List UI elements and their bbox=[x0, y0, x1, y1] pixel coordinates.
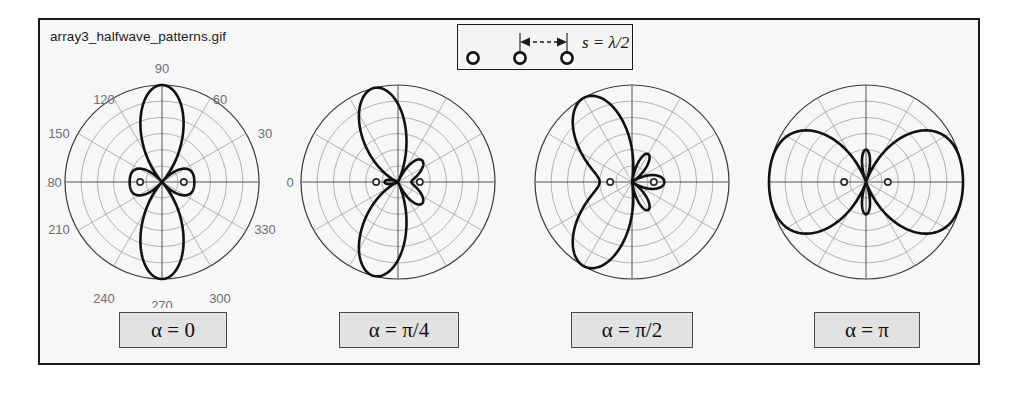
angle-tick-label-240: 240 bbox=[93, 291, 115, 306]
file-caption: array3_halfwave_patterns.gif bbox=[50, 29, 226, 44]
polar-plot-alpha-0: 901206015018021024027030033030 bbox=[46, 56, 278, 308]
antenna-element-marker-1-icon bbox=[137, 179, 143, 185]
angle-tick-label-150: 150 bbox=[48, 126, 70, 141]
angle-tick-label-90: 90 bbox=[155, 61, 169, 76]
polar-plot-alpha-pi-over-4: 0 bbox=[282, 56, 514, 308]
angle-tick-label-270: 270 bbox=[151, 298, 173, 308]
angle-tick-label-30: 30 bbox=[258, 126, 272, 141]
legend-arrowhead-left-icon bbox=[520, 38, 530, 47]
polar-chart-0: 901206015018021024027030033030 bbox=[46, 56, 278, 308]
antenna-element-marker-1-icon bbox=[373, 179, 379, 185]
figure-frame: array3_halfwave_patterns.gif s = λ/2 901… bbox=[38, 18, 980, 365]
antenna-element-marker-2-icon bbox=[181, 179, 187, 185]
caption-alpha-pi-over-2: α = π/2 bbox=[571, 312, 693, 348]
caption-row: α = 0 α = π/4 α = π/2 α = π bbox=[40, 312, 978, 354]
angle-tick-label-330: 330 bbox=[254, 222, 276, 237]
angle-tick-label-0: 0 bbox=[286, 175, 293, 190]
antenna-element-marker-1-icon bbox=[607, 179, 613, 185]
polar-plot-alpha-pi-over-2 bbox=[516, 56, 748, 308]
antenna-element-marker-2-icon bbox=[885, 179, 891, 185]
polar-plot-row: 901206015018021024027030033030 0 bbox=[40, 56, 978, 308]
angle-tick-label-300: 300 bbox=[209, 291, 231, 306]
legend-arrowhead-right-icon bbox=[557, 38, 567, 47]
angle-tick-label-210: 210 bbox=[48, 222, 70, 237]
polar-chart-1: 0 bbox=[282, 56, 514, 308]
polar-plot-alpha-pi bbox=[750, 56, 982, 308]
caption-alpha-pi-over-4: α = π/4 bbox=[339, 312, 459, 348]
antenna-element-marker-1-icon bbox=[841, 179, 847, 185]
legend-spacing-label: s = λ/2 bbox=[582, 33, 630, 52]
caption-alpha-0: α = 0 bbox=[119, 312, 227, 348]
angle-tick-label-60: 60 bbox=[213, 92, 227, 107]
polar-chart-2 bbox=[516, 56, 748, 308]
caption-alpha-pi: α = π bbox=[814, 312, 920, 348]
polar-chart-3 bbox=[750, 56, 982, 308]
angle-tick-label-120: 120 bbox=[93, 92, 115, 107]
antenna-element-marker-2-icon bbox=[417, 179, 423, 185]
antenna-element-marker-2-icon bbox=[651, 179, 657, 185]
angle-tick-label-180: 180 bbox=[46, 175, 62, 190]
